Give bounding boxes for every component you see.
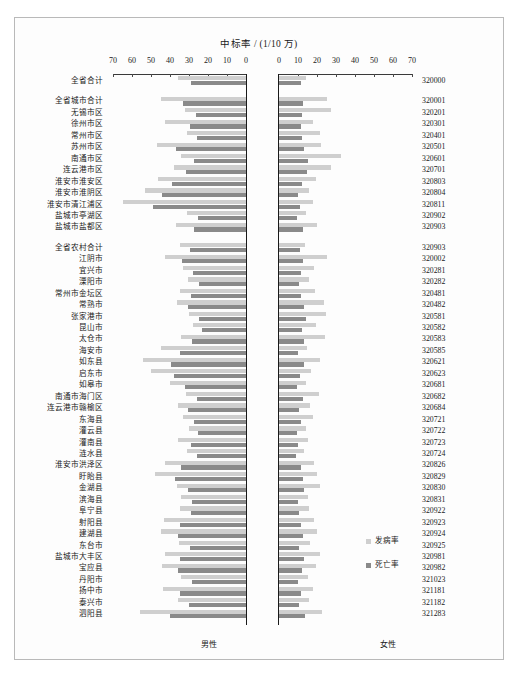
bar-male-incidence xyxy=(178,438,246,442)
bar-female-mortality xyxy=(279,136,302,140)
row-region-code: 321182 xyxy=(422,599,445,607)
chart-row: 连云港市赣榆区320684 xyxy=(15,403,503,414)
bar-female-mortality xyxy=(279,603,299,607)
chart-row: 张家港市320581 xyxy=(15,312,503,323)
row-category-label: 海安市 xyxy=(0,347,103,355)
bar-male-incidence xyxy=(165,552,246,556)
bar-female-incidence xyxy=(279,529,317,533)
row-region-code: 320803 xyxy=(422,178,445,186)
row-region-code: 320001 xyxy=(422,97,445,105)
bar-male-mortality xyxy=(191,511,246,515)
bar-male-mortality xyxy=(191,81,246,85)
row-region-code: 321181 xyxy=(422,587,445,595)
axis-spine-left xyxy=(246,74,247,625)
bar-female-incidence xyxy=(279,415,313,419)
chart-row: 江阴市320002 xyxy=(15,254,503,265)
bar-female-mortality xyxy=(279,546,299,550)
chart-row: 阜宁县320922 xyxy=(15,506,503,517)
row-category-label: 涟水县 xyxy=(0,450,103,458)
chart-row: 淮安市淮安区320803 xyxy=(15,177,503,188)
bar-female-mortality xyxy=(279,420,301,424)
chart-row: 泗阳县321283 xyxy=(15,609,503,620)
bar-female-mortality xyxy=(279,591,301,595)
bar-female-incidence xyxy=(279,243,305,247)
bar-male-mortality xyxy=(192,580,246,584)
row-category-label: 丹阳市 xyxy=(0,576,103,584)
chart-row: 东海县320721 xyxy=(15,415,503,426)
chart-row: 扬中市321181 xyxy=(15,586,503,597)
axis-tick-right-40: 40 xyxy=(345,56,365,65)
chart-row: 射阳县320923 xyxy=(15,518,503,529)
legend-entry-mortality: 死亡率 xyxy=(366,561,399,570)
chart-row: 如皋市320681 xyxy=(15,380,503,391)
chart-row: 建湖县320924 xyxy=(15,529,503,540)
row-region-code: 320583 xyxy=(422,335,445,343)
row-category-label: 如东县 xyxy=(0,358,103,366)
chart-row: 丹阳市321023 xyxy=(15,575,503,586)
bar-female-incidence xyxy=(279,564,316,568)
bar-female-incidence xyxy=(279,552,320,556)
bar-male-mortality xyxy=(183,101,246,105)
chart-row: 如东县320621 xyxy=(15,357,503,368)
bar-female-mortality xyxy=(279,170,307,174)
bar-male-incidence xyxy=(165,120,246,124)
bar-female-incidence xyxy=(279,358,320,362)
bar-male-incidence xyxy=(177,300,246,304)
bar-female-mortality xyxy=(279,101,303,105)
row-category-label: 泰兴市 xyxy=(0,599,103,607)
bar-female-incidence xyxy=(279,495,308,499)
bar-female-incidence xyxy=(279,346,307,350)
bar-male-mortality xyxy=(190,248,246,252)
bar-female-mortality xyxy=(279,557,304,561)
bar-male-incidence xyxy=(185,108,246,112)
bar-male-incidence xyxy=(178,403,246,407)
bar-male-incidence xyxy=(178,76,246,80)
bar-male-mortality xyxy=(182,259,246,263)
axis-spine-right xyxy=(278,74,279,625)
row-region-code: 320721 xyxy=(422,416,445,424)
bar-male-incidence xyxy=(189,312,246,316)
bar-male-incidence xyxy=(164,518,246,522)
bar-female-incidence xyxy=(279,223,317,227)
legend-label: 死亡率 xyxy=(375,560,399,569)
bar-female-mortality xyxy=(279,408,299,412)
row-category-label: 盐城市大丰区 xyxy=(0,553,103,561)
bar-male-incidence xyxy=(187,131,246,135)
bar-male-mortality xyxy=(197,454,246,458)
row-region-code: 320601 xyxy=(422,155,445,163)
row-region-code: 320621 xyxy=(422,358,445,366)
axis-tick-left-40: 40 xyxy=(160,56,180,65)
chart-row: 常州市区320401 xyxy=(15,131,503,142)
bar-female-incidence xyxy=(279,541,310,545)
bar-male-incidence xyxy=(187,449,246,453)
row-category-label: 淮安市洪泽区 xyxy=(0,461,103,469)
bar-female-mortality xyxy=(279,147,304,151)
row-category-label: 灌云县 xyxy=(0,427,103,435)
bar-female-mortality xyxy=(279,339,304,343)
bar-female-mortality xyxy=(279,443,298,447)
row-region-code: 320830 xyxy=(422,484,445,492)
bar-male-incidence xyxy=(145,188,246,192)
bar-female-incidence xyxy=(279,97,327,101)
row-category-label: 常熟市 xyxy=(0,301,103,309)
bar-female-incidence xyxy=(279,154,341,158)
bar-female-mortality xyxy=(279,294,301,298)
bar-male-mortality xyxy=(194,159,246,163)
bar-female-mortality xyxy=(279,374,300,378)
bar-female-incidence xyxy=(279,300,324,304)
bar-female-incidence xyxy=(279,188,309,192)
axis-tick-right-10: 10 xyxy=(288,56,308,65)
row-region-code: 320723 xyxy=(422,439,445,447)
bar-male-mortality xyxy=(185,385,246,389)
bar-male-incidence xyxy=(157,143,246,147)
bar-male-mortality xyxy=(180,351,247,355)
row-category-label: 全省城市合计 xyxy=(0,97,103,105)
bar-male-incidence xyxy=(188,277,246,281)
bar-male-mortality xyxy=(196,113,246,117)
bar-female-mortality xyxy=(279,248,300,252)
bar-male-incidence xyxy=(163,587,246,591)
bar-female-incidence xyxy=(279,381,306,385)
bar-female-mortality xyxy=(279,227,303,231)
bar-female-incidence xyxy=(279,518,314,522)
bar-male-incidence xyxy=(161,529,247,533)
